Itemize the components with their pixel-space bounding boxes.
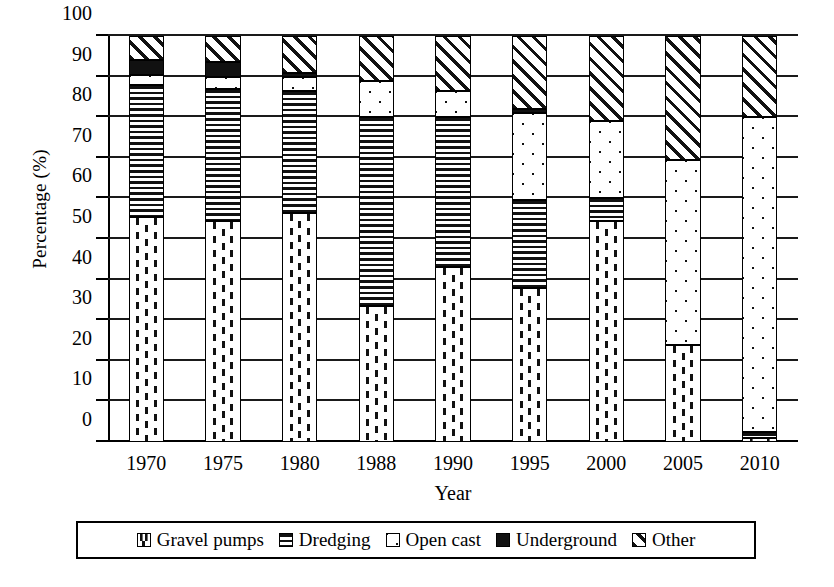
legend-item[interactable]: Dredging [279,529,371,551]
bar-segment[interactable] [205,221,240,442]
bar-segment[interactable] [205,89,240,221]
bar-column[interactable] [359,36,394,442]
legend-item[interactable]: Gravel pumps [137,529,264,551]
stacked-bar-chart: Percentage (%) 0102030405060708090100 19… [0,0,834,587]
bar-column[interactable] [665,36,700,442]
bar-column[interactable] [282,36,317,442]
bar-segment[interactable] [129,75,164,85]
x-tick-label: 1980 [280,452,320,475]
bar-segment[interactable] [512,109,547,113]
bar-stack [359,36,394,442]
y-tick-label: 50 [72,205,92,228]
bar-segment[interactable] [742,432,777,438]
legend-item[interactable]: Underground [496,529,617,551]
bar-segment[interactable] [665,345,700,442]
x-axis-title: Year [108,482,798,505]
bar-segment[interactable] [589,221,624,442]
bar-segment[interactable] [129,36,164,60]
x-tick-label: 2005 [663,452,703,475]
bar-segment[interactable] [282,36,317,73]
bar-stack [435,36,470,442]
y-tick-label: 40 [72,245,92,268]
y-tick-mark [96,399,108,401]
y-tick-label: 90 [72,42,92,65]
y-tick-mark [96,156,108,158]
bar-segment[interactable] [589,36,624,121]
plot-area: 0102030405060708090100 19701975198019881… [108,36,798,442]
y-axis-title: Percentage (%) [29,129,51,289]
legend-item[interactable]: Open cast [386,529,481,551]
bar-segment[interactable] [512,36,547,109]
bar-segment[interactable] [205,36,240,62]
y-tick-label: 60 [72,164,92,187]
legend-label: Other [652,529,695,551]
y-tick-mark [96,440,108,442]
bar-segment[interactable] [129,217,164,442]
y-tick-mark [96,359,108,361]
bar-segment[interactable] [359,81,394,118]
bar-column[interactable] [589,36,624,442]
bar-segment[interactable] [282,77,317,91]
x-tick-label: 1990 [433,452,473,475]
y-tick-mark [96,75,108,77]
bar-segment[interactable] [435,267,470,442]
y-tick-label: 30 [72,286,92,309]
x-tick-label: 2010 [740,452,780,475]
legend-label: Gravel pumps [157,529,264,551]
bar-column[interactable] [512,36,547,442]
x-tick-label: 1970 [126,452,166,475]
bar-segment[interactable] [742,117,777,432]
legend-swatch-icon [137,533,151,547]
bar-segment[interactable] [435,36,470,91]
bar-segment[interactable] [665,36,700,160]
x-tick-label: 1995 [510,452,550,475]
legend-swatch-icon [279,533,293,547]
y-tick-mark [96,196,108,198]
bar-segment[interactable] [359,36,394,81]
y-tick-mark [96,318,108,320]
bar-segment[interactable] [435,117,470,267]
bar-stack [512,36,547,442]
bar-stack [282,36,317,442]
legend-label: Open cast [406,529,481,551]
y-tick-mark [96,34,108,36]
bar-segment[interactable] [665,160,700,345]
bar-segment[interactable] [129,85,164,217]
y-tick-label: 20 [72,326,92,349]
bar-segment[interactable] [512,113,547,200]
bar-column[interactable] [742,36,777,442]
chart-legend: Gravel pumpsDredgingOpen castUnderground… [76,521,756,559]
bar-segment[interactable] [359,117,394,306]
y-tick-label: 100 [62,2,92,25]
y-tick-mark [96,278,108,280]
bar-column[interactable] [205,36,240,442]
x-tick-label: 2000 [586,452,626,475]
bar-stack [665,36,700,442]
bar-segment[interactable] [512,288,547,442]
y-tick-mark [96,115,108,117]
bar-stack [129,36,164,442]
bar-segment[interactable] [589,198,624,220]
bar-segment[interactable] [435,91,470,117]
bar-segment[interactable] [205,62,240,76]
x-tick-label: 1988 [356,452,396,475]
y-tick-label: 70 [72,123,92,146]
legend-label: Dredging [299,529,371,551]
bar-segment[interactable] [359,306,394,442]
bar-column[interactable] [435,36,470,442]
y-tick-mark [96,237,108,239]
bar-segment[interactable] [282,91,317,213]
bar-segment[interactable] [742,438,777,442]
bar-segment[interactable] [205,77,240,89]
y-tick-label: 0 [82,408,92,431]
bar-segment[interactable] [282,213,317,442]
bar-column[interactable] [129,36,164,442]
bar-segment[interactable] [742,36,777,117]
y-tick-label: 80 [72,83,92,106]
bar-segment[interactable] [589,121,624,198]
legend-item[interactable]: Other [632,529,695,551]
bar-segment[interactable] [512,200,547,287]
bar-segment[interactable] [129,60,164,74]
bar-segment[interactable] [282,73,317,77]
bar-stack [205,36,240,442]
